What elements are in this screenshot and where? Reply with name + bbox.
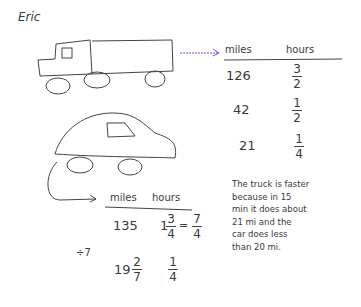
truck-hours-2: 1 2: [292, 97, 302, 124]
truck-wheel: [145, 71, 165, 87]
truck-miles-3: 21: [239, 138, 256, 153]
truck-hours-3: 1 4: [294, 133, 304, 160]
divide-by-7: ÷7: [76, 247, 91, 258]
worksheet-page: Eric mile: [0, 0, 361, 307]
car-wheel: [118, 159, 142, 175]
car-table-rule: [105, 207, 192, 210]
truck-header-hours: hours: [286, 44, 314, 55]
truck-miles-2: 42: [233, 102, 250, 117]
truck-trailer: [92, 40, 173, 74]
truck-wheel: [84, 72, 110, 88]
truck-table-rule: [224, 59, 342, 60]
car-header-hours: hours: [152, 192, 180, 203]
truck-hours-1: 3 2: [292, 63, 302, 90]
car-hours-2: 1 4: [168, 256, 178, 283]
truck-wheel: [46, 78, 70, 94]
truck-miles-1: 126: [226, 68, 251, 83]
explanation-text: The truck is faster because in 15 min it…: [232, 178, 309, 253]
car-body: [55, 113, 176, 158]
truck-header-miles: miles: [225, 44, 252, 55]
truck-drawing: [38, 40, 173, 94]
car-header-miles: miles: [110, 192, 137, 203]
car-drawing: [55, 113, 176, 175]
equals-sign: =: [179, 219, 188, 232]
blue-arrow: [180, 49, 219, 56]
car-hours-1-fraction: 3 4: [166, 213, 176, 240]
car-miles-1: 135: [113, 218, 138, 233]
curved-arrow: [48, 162, 96, 202]
car-window: [107, 123, 135, 137]
car-hours-1-improper: 7 4: [192, 213, 202, 240]
car-wheel: [67, 157, 93, 173]
car-miles-2-whole: 19: [114, 262, 131, 277]
car-miles-2-fraction: 2 7: [132, 256, 142, 283]
truck-window: [62, 48, 72, 58]
